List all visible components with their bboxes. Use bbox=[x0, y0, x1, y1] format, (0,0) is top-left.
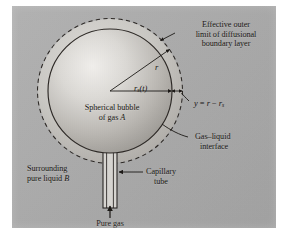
surrounding-liquid-line2: pure liquid B bbox=[27, 174, 69, 184]
boundary-layer-label-leader bbox=[161, 33, 176, 41]
bubble-label: Spherical bubble of gas A bbox=[64, 103, 160, 122]
film-thickness-label-leader bbox=[182, 93, 190, 101]
gas-liquid-interface-line1: Gas–liquid bbox=[195, 132, 230, 142]
boundary-layer-label-line1: Effective outer bbox=[180, 20, 272, 30]
boundary-layer-label-line3: boundary layer bbox=[180, 39, 272, 49]
bubble-label-prefix: of gas bbox=[99, 113, 120, 122]
surrounding-liquid-species: B bbox=[64, 174, 69, 183]
bubble-label-line1: Spherical bubble bbox=[64, 103, 160, 113]
film-thickness-label: y = r − rs bbox=[194, 99, 224, 110]
capillary-tube-label: Capillary tube bbox=[146, 167, 176, 186]
pure-gas-label: Pure gas A bbox=[75, 219, 145, 228]
surrounding-liquid-line1: Surrounding bbox=[27, 164, 69, 174]
pure-gas-line1: Pure gas bbox=[75, 219, 145, 228]
surrounding-liquid-prefix: pure liquid bbox=[27, 174, 64, 183]
figure-panel: Effective outer limit of diffusional bou… bbox=[12, 6, 276, 228]
film-thickness-equals: = bbox=[198, 99, 207, 108]
film-thickness-rs-subscript: s bbox=[222, 102, 224, 108]
boundary-layer-label-line2: limit of diffusional bbox=[180, 30, 272, 40]
radius-r-label: r bbox=[155, 63, 158, 72]
film-thickness-minus: − bbox=[210, 99, 219, 108]
boundary-layer-label: Effective outer limit of diffusional bou… bbox=[180, 20, 272, 49]
radius-r-symbol: r bbox=[155, 63, 158, 72]
gas-liquid-interface-label: Gas–liquid interface bbox=[195, 132, 230, 151]
capillary-tube-body bbox=[103, 146, 117, 208]
gas-liquid-interface-line2: interface bbox=[195, 142, 230, 152]
bubble-label-species: A bbox=[120, 113, 125, 122]
bubble-label-line2: of gas A bbox=[64, 113, 160, 123]
capillary-tube-line1: Capillary bbox=[146, 167, 176, 177]
radius-rs-label: rs(t) bbox=[134, 84, 147, 95]
surrounding-liquid-label: Surrounding pure liquid B bbox=[27, 164, 69, 183]
capillary-tube-line2: tube bbox=[146, 177, 176, 187]
radius-rs-argument: (t) bbox=[139, 84, 147, 93]
figure-page: Effective outer limit of diffusional bou… bbox=[0, 0, 288, 243]
